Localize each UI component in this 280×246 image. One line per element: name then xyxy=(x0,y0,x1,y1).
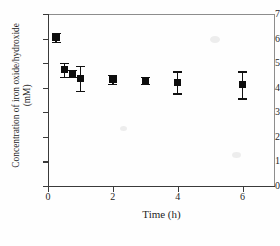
error-bar-cap-upper xyxy=(238,71,247,72)
error-bar-cap-upper xyxy=(76,66,85,67)
x-tick-label: 6 xyxy=(232,192,254,202)
x-axis-line xyxy=(48,186,275,187)
y-axis-title: Concentration of iron oxide/hydroxide (m… xyxy=(11,0,34,193)
data-marker xyxy=(109,75,116,82)
error-bar-cap-upper xyxy=(173,71,182,72)
data-point xyxy=(70,64,90,94)
error-bar-cap-lower xyxy=(141,84,150,85)
error-bar-cap-lower xyxy=(52,42,61,43)
data-point xyxy=(46,31,66,43)
x-tick-label: 4 xyxy=(167,192,189,202)
x-tick-label: 0 xyxy=(37,192,59,202)
data-marker xyxy=(142,77,149,84)
error-bar-cap-lower xyxy=(108,84,117,85)
data-point xyxy=(233,69,253,100)
data-point xyxy=(168,69,188,95)
x-tick-label: 2 xyxy=(102,192,124,202)
figure-panel: 01234567 0246 Concentration of iron oxid… xyxy=(0,0,280,246)
error-bar-cap-lower xyxy=(173,93,182,94)
y-axis-title-line2: (mM) xyxy=(22,84,32,106)
data-point xyxy=(135,75,155,86)
data-layer xyxy=(48,14,275,186)
error-bar-cap-lower xyxy=(76,91,85,92)
data-point xyxy=(103,73,123,86)
data-marker xyxy=(239,81,246,88)
data-marker xyxy=(52,34,59,41)
error-bar-cap-upper xyxy=(60,63,69,64)
y-axis-title-line1: Concentration of iron oxide/hydroxide xyxy=(11,23,21,168)
error-bar-cap-lower xyxy=(238,98,247,99)
x-axis-title: Time (h) xyxy=(48,208,275,220)
data-marker xyxy=(174,79,181,86)
data-marker xyxy=(77,75,84,82)
